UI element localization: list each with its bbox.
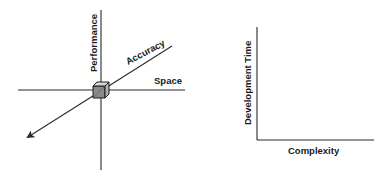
space-label: Space bbox=[154, 75, 182, 86]
diagram-canvas: Performance Accuracy Space Development T… bbox=[0, 0, 391, 176]
performance-label: Performance bbox=[88, 14, 99, 72]
right-diagram: Development Time Complexity bbox=[242, 27, 374, 156]
development-time-label: Development Time bbox=[242, 41, 253, 125]
left-diagram: Performance Accuracy Space bbox=[18, 10, 185, 170]
cube-icon bbox=[93, 82, 109, 98]
complexity-label: Complexity bbox=[288, 145, 340, 156]
